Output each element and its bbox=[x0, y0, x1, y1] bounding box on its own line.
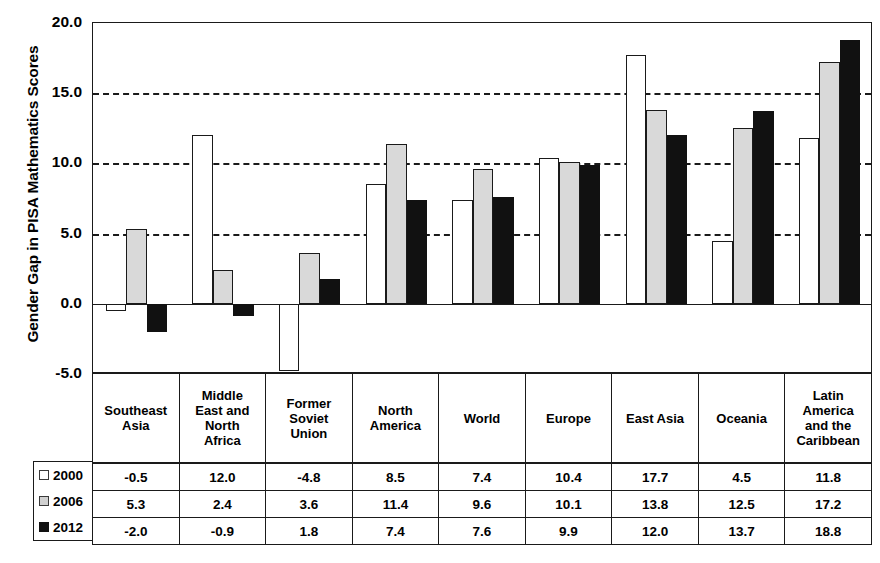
bar-group bbox=[700, 23, 787, 372]
table-value-cell: 13.7 bbox=[698, 518, 785, 545]
legend-item-2000: 2000 bbox=[34, 462, 92, 488]
table-category-cell: World bbox=[439, 374, 526, 464]
bar-group bbox=[180, 23, 267, 372]
y-axis-tick-label: 15.0 bbox=[18, 83, 82, 101]
table-value-cell: -2.0 bbox=[93, 518, 180, 545]
white-square-icon bbox=[39, 470, 49, 480]
bar-2012 bbox=[233, 304, 254, 317]
bar-2012 bbox=[147, 304, 168, 332]
table-value-cell: 17.7 bbox=[612, 463, 699, 491]
table-category-cell: NorthAmerica bbox=[352, 374, 439, 464]
table-value-cell: 11.8 bbox=[785, 463, 872, 491]
table-category-cell: SoutheastAsia bbox=[93, 374, 180, 464]
table-value-cell: 12.5 bbox=[698, 491, 785, 518]
bar-2000 bbox=[279, 304, 300, 371]
bar-group bbox=[526, 23, 613, 372]
bar-2000 bbox=[366, 184, 387, 303]
bar-group bbox=[93, 23, 180, 372]
bar-group bbox=[786, 23, 873, 372]
chart-legend: 200020062012 bbox=[33, 461, 92, 541]
bar-2012 bbox=[407, 200, 428, 304]
table-category-cell: Oceania bbox=[698, 374, 785, 464]
legend-label: 2012 bbox=[53, 520, 83, 535]
chart-figure: Gender Gap in PISA Mathematics Scores 20… bbox=[0, 0, 880, 563]
table-category-cell: FormerSovietUnion bbox=[266, 374, 353, 464]
bar-2006 bbox=[559, 162, 580, 304]
table-value-cell: 11.4 bbox=[352, 491, 439, 518]
bar-group bbox=[353, 23, 440, 372]
bar-2000 bbox=[539, 158, 560, 304]
legend-label: 2000 bbox=[53, 468, 83, 483]
bar-2006 bbox=[819, 62, 840, 303]
legend-item-2006: 2006 bbox=[34, 488, 92, 514]
table-value-cell: 17.2 bbox=[785, 491, 872, 518]
gray-square-icon bbox=[39, 496, 49, 506]
table-value-cell: 7.4 bbox=[352, 518, 439, 545]
table-value-cell: -0.5 bbox=[93, 463, 180, 491]
table-value-cell: 5.3 bbox=[93, 491, 180, 518]
table-category-row: SoutheastAsiaMiddleEast andNorthAfricaFo… bbox=[93, 374, 872, 464]
table-value-cell: 13.8 bbox=[612, 491, 699, 518]
table-value-cell: 3.6 bbox=[266, 491, 353, 518]
y-axis-tick-labels: 20.015.010.05.00.0-5.0 bbox=[18, 0, 82, 400]
table-value-cell: -0.9 bbox=[179, 518, 266, 545]
plot-area bbox=[92, 22, 872, 373]
table-value-cell: 12.0 bbox=[612, 518, 699, 545]
table-value-cell: -4.8 bbox=[266, 463, 353, 491]
bar-2012 bbox=[493, 197, 514, 304]
y-axis-tick-label: -5.0 bbox=[18, 364, 82, 382]
bar-2012 bbox=[753, 111, 774, 303]
bar-2000 bbox=[799, 138, 820, 304]
bar-2012 bbox=[580, 165, 601, 304]
bar-2006 bbox=[733, 128, 754, 304]
bar-2000 bbox=[192, 135, 213, 303]
bar-2000 bbox=[626, 55, 647, 304]
table-value-cell: 10.4 bbox=[525, 463, 612, 491]
black-square-icon bbox=[39, 522, 49, 532]
data-table: SoutheastAsiaMiddleEast andNorthAfricaFo… bbox=[92, 373, 872, 545]
bar-2006 bbox=[646, 110, 667, 304]
bar-2012 bbox=[667, 135, 688, 303]
table-value-cell: 2.4 bbox=[179, 491, 266, 518]
bar-2006 bbox=[213, 270, 234, 304]
bar-group bbox=[440, 23, 527, 372]
table-value-cell: 9.9 bbox=[525, 518, 612, 545]
table-value-cell: 4.5 bbox=[698, 463, 785, 491]
bar-series-container bbox=[93, 23, 871, 372]
table-value-cell: 9.6 bbox=[439, 491, 526, 518]
bar-group bbox=[266, 23, 353, 372]
y-axis-tick-label: 5.0 bbox=[18, 224, 82, 242]
bar-2012 bbox=[840, 40, 861, 304]
table-value-cell: 10.1 bbox=[525, 491, 612, 518]
table-value-cell: 12.0 bbox=[179, 463, 266, 491]
table-value-cell: 1.8 bbox=[266, 518, 353, 545]
legend-item-2012: 2012 bbox=[34, 514, 92, 540]
legend-label: 2006 bbox=[53, 494, 83, 509]
table-value-cell: 7.4 bbox=[439, 463, 526, 491]
table-row: -0.512.0-4.88.57.410.417.74.511.8 bbox=[93, 463, 872, 491]
bar-2006 bbox=[299, 253, 320, 304]
table-row: 5.32.43.611.49.610.113.812.517.2 bbox=[93, 491, 872, 518]
bar-2006 bbox=[386, 144, 407, 304]
table-value-cell: 8.5 bbox=[352, 463, 439, 491]
table-value-cell: 7.6 bbox=[439, 518, 526, 545]
bar-2000 bbox=[712, 241, 733, 304]
table-category-cell: Europe bbox=[525, 374, 612, 464]
bar-group bbox=[613, 23, 700, 372]
bar-2012 bbox=[320, 279, 341, 304]
table-category-cell: MiddleEast andNorthAfrica bbox=[179, 374, 266, 464]
bar-2000 bbox=[106, 304, 127, 311]
bar-2006 bbox=[473, 169, 494, 304]
table-row: -2.0-0.91.87.47.69.912.013.718.8 bbox=[93, 518, 872, 545]
y-axis-tick-label: 20.0 bbox=[18, 13, 82, 31]
y-axis-tick-label: 0.0 bbox=[18, 294, 82, 312]
y-axis-tick-label: 10.0 bbox=[18, 153, 82, 171]
table-value-cell: 18.8 bbox=[785, 518, 872, 545]
table-category-cell: LatinAmericaand theCaribbean bbox=[785, 374, 872, 464]
bar-2000 bbox=[452, 200, 473, 304]
table-category-cell: East Asia bbox=[612, 374, 699, 464]
bar-2006 bbox=[126, 229, 147, 303]
